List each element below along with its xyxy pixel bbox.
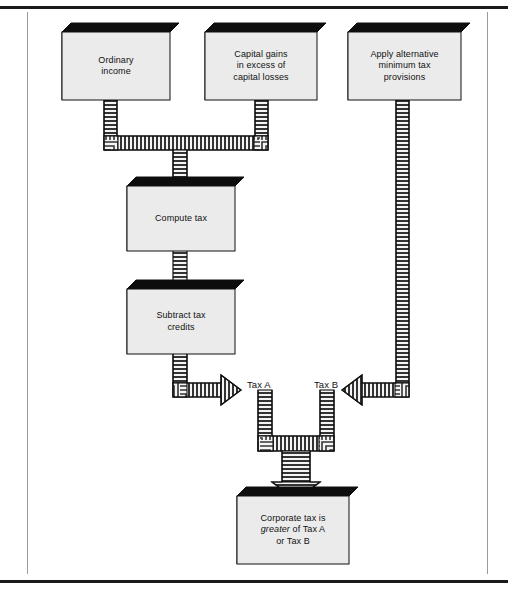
box-front-face (348, 32, 461, 100)
label-tax-b: Tax B (314, 379, 338, 390)
box-front-face (62, 32, 170, 100)
box-top-face (205, 23, 326, 32)
box-capital-gains (205, 23, 326, 100)
box-front-face (237, 496, 349, 564)
box-top-face (62, 23, 179, 32)
box-compute-tax (127, 177, 244, 251)
box-top-face (127, 280, 244, 289)
figure-page: OrdinaryincomeCapital gainsin excess ofc… (0, 0, 508, 593)
connector-subtract-credits-to-tax-a (173, 353, 241, 405)
box-subtract-tax-credits (127, 280, 244, 354)
box-front-face (127, 186, 235, 251)
box-front-face (127, 289, 235, 354)
label-tax-a: Tax A (247, 379, 271, 390)
flowchart-canvas (0, 0, 508, 593)
box-top-face (348, 23, 470, 32)
box-alternative-minimum-tax (348, 23, 470, 100)
box-front-face (205, 32, 317, 100)
box-ordinary-income (62, 23, 179, 100)
box-top-face (237, 487, 358, 496)
box-corporate-tax-result (237, 487, 358, 564)
box-top-face (127, 177, 244, 186)
connector-merge-tax-a-and-b (258, 390, 334, 500)
connector-amt-to-tax-b (342, 100, 409, 405)
